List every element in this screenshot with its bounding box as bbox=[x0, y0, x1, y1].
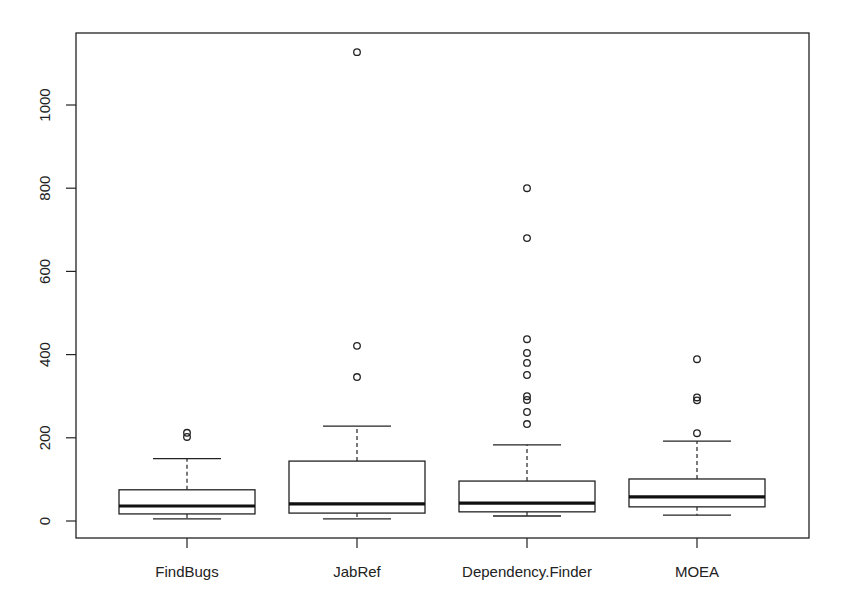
plot-border bbox=[76, 33, 809, 538]
plot-frame bbox=[76, 33, 809, 538]
boxplot-chart: 02004006008001000 FindBugsJabRefDependen… bbox=[0, 0, 844, 611]
y-tick-label: 400 bbox=[36, 342, 53, 367]
outlier-point bbox=[694, 356, 701, 363]
box-moea bbox=[629, 356, 765, 515]
y-tick-label: 600 bbox=[36, 259, 53, 284]
outlier-point bbox=[354, 374, 361, 381]
box-findbugs bbox=[119, 430, 255, 519]
outlier-point bbox=[524, 185, 531, 192]
outlier-point bbox=[354, 49, 361, 56]
y-tick-label: 200 bbox=[36, 425, 53, 450]
x-tick-label-jabref: JabRef bbox=[333, 563, 381, 580]
outlier-point bbox=[524, 372, 531, 379]
box-dependency-finder bbox=[459, 185, 595, 516]
x-tick-label-moea: MOEA bbox=[675, 563, 719, 580]
y-tick-label: 1000 bbox=[36, 88, 53, 121]
outlier-point bbox=[524, 360, 531, 367]
box-jabref bbox=[289, 49, 425, 519]
outlier-point bbox=[524, 421, 531, 428]
x-axis: FindBugsJabRefDependency.FinderMOEA bbox=[155, 538, 719, 580]
y-tick-label: 800 bbox=[36, 176, 53, 201]
outlier-point bbox=[354, 343, 361, 350]
outlier-point bbox=[524, 350, 531, 357]
outlier-point bbox=[524, 235, 531, 242]
outlier-point bbox=[524, 336, 531, 343]
outlier-point bbox=[524, 409, 531, 416]
iqr-box bbox=[629, 479, 765, 507]
x-tick-label-findbugs: FindBugs bbox=[155, 563, 218, 580]
iqr-box bbox=[459, 481, 595, 512]
x-tick-label-dependency-finder: Dependency.Finder bbox=[462, 563, 592, 580]
y-axis: 02004006008001000 bbox=[36, 88, 76, 525]
outlier-point bbox=[184, 430, 191, 437]
outlier-point bbox=[694, 430, 701, 437]
iqr-box bbox=[119, 490, 255, 514]
y-tick-label: 0 bbox=[36, 517, 53, 525]
boxes bbox=[119, 49, 765, 519]
